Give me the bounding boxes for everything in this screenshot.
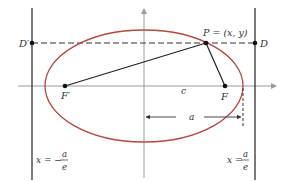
label-c: c — [181, 86, 186, 96]
svg-text:a: a — [243, 149, 248, 159]
left-directrix-equation: x = − a e — [36, 149, 68, 172]
svg-text:e: e — [243, 162, 248, 172]
svg-text:x =: x = — [227, 155, 242, 165]
label-f: F — [220, 91, 229, 102]
label-d: D — [259, 38, 268, 49]
svg-text:a: a — [62, 149, 67, 159]
segment-f-prime-to-p — [65, 43, 206, 86]
segment-p-to-f — [206, 43, 225, 86]
point-p — [204, 41, 209, 46]
right-directrix-equation: x = a e — [227, 149, 249, 172]
label-d-prime: D′ — [18, 38, 30, 49]
label-a: a — [189, 112, 194, 122]
svg-text:x = −: x = − — [36, 155, 62, 165]
point-d — [253, 41, 258, 46]
point-f — [223, 84, 228, 89]
ellipse-directrix-diagram: D′ D P = (x, y) F′ F c a x = − a e x = a… — [0, 0, 288, 181]
point-d-prime — [30, 41, 35, 46]
svg-text:e: e — [62, 162, 67, 172]
point-f-prime — [63, 84, 68, 89]
label-p: P = (x, y) — [202, 27, 248, 38]
label-f-prime: F′ — [60, 90, 71, 101]
